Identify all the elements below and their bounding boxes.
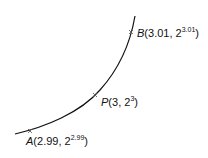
point-p-exp: 3 (130, 95, 134, 102)
point-b-x: 3.01 (148, 27, 169, 39)
point-a-exp: 2.99 (71, 134, 85, 141)
point-p-x: 3 (112, 96, 118, 108)
exponential-curve (15, 16, 135, 134)
point-a-x: 2.99 (37, 135, 58, 147)
point-a-name: A (26, 135, 33, 147)
point-b-exp: 3.01 (182, 26, 196, 33)
point-a-label: A(2.99, 22.99) (26, 135, 88, 147)
point-p-label: P(3, 23) (101, 96, 138, 108)
point-p-marker (93, 93, 97, 97)
point-p-name: P (101, 96, 108, 108)
point-b-label: B(3.01, 23.01) (137, 27, 199, 39)
point-b-name: B (137, 27, 144, 39)
